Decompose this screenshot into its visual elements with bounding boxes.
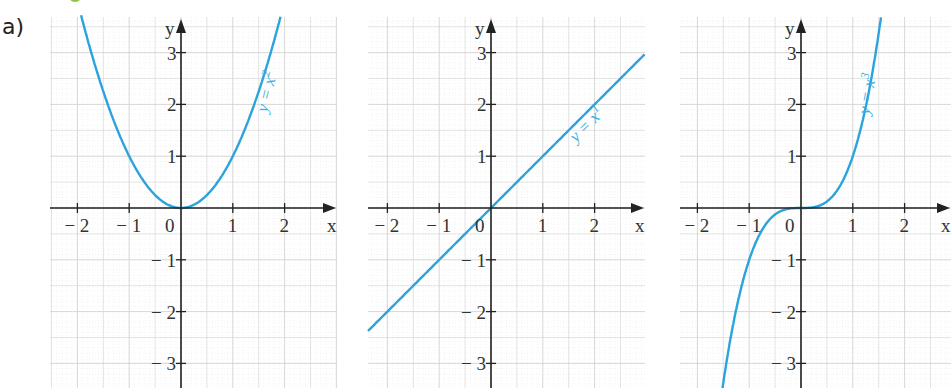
y-tick-label: − 2 — [461, 302, 486, 323]
y-axis-arrow-icon — [796, 19, 806, 33]
y-axis-label: y — [165, 18, 175, 39]
y-axis-label: y — [475, 18, 485, 39]
y-tick-label: 1 — [167, 146, 177, 167]
graph-linear: − 2− 1120321− 1− 2− 3xyy = x1 — [368, 17, 645, 388]
y-tick-label: 1 — [477, 146, 487, 167]
y-tick-label: − 1 — [461, 250, 486, 271]
y-tick-label: 2 — [787, 94, 797, 115]
x-tick-label: 1 — [538, 215, 548, 236]
x-tick-label: 1 — [848, 215, 858, 236]
graph-cube: − 2− 1120321− 1− 2− 3xyy = x3 — [680, 17, 951, 388]
minor-grid — [50, 17, 337, 388]
y-tick-label: 1 — [787, 146, 797, 167]
x-tick-label: 2 — [590, 215, 600, 236]
y-tick-label: − 2 — [151, 302, 176, 323]
y-tick-label: − 1 — [151, 250, 176, 271]
x-axis-label: x — [635, 215, 645, 236]
minor-grid — [680, 17, 951, 388]
x-tick-label: 1 — [228, 215, 238, 236]
x-tick-label: − 1 — [736, 215, 761, 236]
x-axis-arrow-icon — [631, 203, 644, 213]
x-axis-arrow-icon — [323, 203, 336, 213]
y-axis-arrow-icon — [486, 19, 496, 33]
x-axis-label: x — [941, 215, 951, 236]
x-axis-arrow-icon — [937, 203, 950, 213]
y-tick-label: − 3 — [151, 353, 176, 374]
x-tick-label: − 1 — [426, 215, 451, 236]
minor-grid — [368, 17, 645, 388]
y-tick-label: 3 — [167, 43, 177, 64]
y-axis-label: y — [785, 18, 795, 39]
x-tick-label: − 1 — [116, 215, 141, 236]
origin-label: 0 — [475, 215, 485, 236]
graph-square: − 2− 1120321− 1− 2− 3xyy = x2 — [50, 15, 337, 388]
y-tick-label: 2 — [167, 94, 177, 115]
x-axis-label: x — [327, 215, 337, 236]
x-tick-label: − 2 — [64, 215, 89, 236]
origin-label: 0 — [165, 215, 175, 236]
y-tick-label: 2 — [477, 94, 487, 115]
y-tick-label: 3 — [477, 43, 487, 64]
y-tick-label: − 3 — [771, 353, 796, 374]
y-tick-label: − 1 — [771, 250, 796, 271]
x-tick-label: − 2 — [374, 215, 399, 236]
origin-label: 0 — [785, 215, 795, 236]
x-tick-label: 2 — [900, 215, 910, 236]
y-tick-label: − 2 — [771, 302, 796, 323]
graphs-canvas: − 2− 1120321− 1− 2− 3xyy = x2− 2− 112032… — [0, 0, 951, 388]
x-tick-label: 2 — [280, 215, 290, 236]
y-axis-arrow-icon — [176, 19, 186, 33]
y-tick-label: − 3 — [461, 353, 486, 374]
y-tick-label: 3 — [787, 43, 797, 64]
x-tick-label: − 2 — [684, 215, 709, 236]
